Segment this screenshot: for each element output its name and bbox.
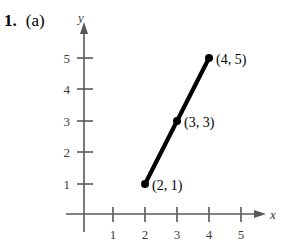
x-tick-label: 5 xyxy=(238,227,245,242)
data-point-2-1[interactable] xyxy=(141,180,149,188)
y-axis-label: y xyxy=(76,10,84,25)
x-axis-arrow-icon xyxy=(254,210,266,218)
x-tick-label: 3 xyxy=(174,227,181,242)
figure-container: 1.(a) y x 5 4 3 2 1 xyxy=(0,0,285,249)
y-tick-label: 2 xyxy=(64,145,71,160)
point-label-4-5: (4, 5) xyxy=(216,52,247,68)
x-tick-label: 1 xyxy=(110,227,117,242)
y-axis-ticks xyxy=(77,58,93,184)
y-tick-label: 1 xyxy=(64,177,71,192)
y-tick-label: 3 xyxy=(64,114,71,129)
point-label-2-1: (2, 1) xyxy=(152,178,183,194)
point-label-3-3: (3, 3) xyxy=(184,115,215,131)
y-tick-label: 5 xyxy=(64,51,71,66)
coordinate-plane-plot: y x 5 4 3 2 1 1 2 3 4 xyxy=(0,0,285,249)
data-point-4-5[interactable] xyxy=(205,54,213,62)
y-tick-label: 4 xyxy=(64,82,71,97)
x-axis-tick-labels: 1 2 3 4 5 xyxy=(110,227,245,242)
x-tick-label: 2 xyxy=(142,227,149,242)
x-tick-label: 4 xyxy=(206,227,213,242)
data-point-3-3[interactable] xyxy=(173,117,181,125)
x-axis-label: x xyxy=(269,207,276,222)
y-axis-tick-labels: 5 4 3 2 1 xyxy=(64,51,71,192)
